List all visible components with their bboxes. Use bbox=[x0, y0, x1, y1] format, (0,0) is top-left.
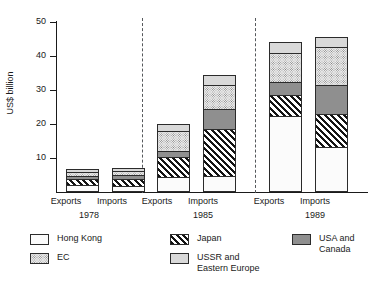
bar-1985-imports[interactable] bbox=[203, 75, 236, 192]
bar-segment-hong-kong bbox=[316, 147, 347, 191]
plot-area bbox=[57, 22, 367, 192]
group-label-1985: 1985 bbox=[158, 210, 248, 220]
legend-label-ussr-eastern-europe: USSR and Eastern Europe bbox=[197, 252, 260, 274]
y-axis-title: US$ billion bbox=[5, 58, 15, 128]
legend-swatch-ussr-icon bbox=[170, 253, 189, 264]
bar-segment-japan bbox=[204, 129, 235, 176]
bar-segment-japan bbox=[270, 95, 301, 116]
x-label-1985-imports: Imports bbox=[171, 196, 235, 206]
legend-item-ussr-eastern-europe[interactable]: USSR and Eastern Europe bbox=[170, 252, 260, 274]
bar-segment-hong-kong bbox=[158, 177, 189, 191]
bar-segment-ec bbox=[158, 131, 189, 151]
bar-1978-exports[interactable] bbox=[66, 169, 99, 192]
bar-1978-imports[interactable] bbox=[112, 168, 145, 192]
y-tick-50 bbox=[50, 22, 56, 23]
bar-segment-ec bbox=[270, 53, 301, 81]
legend-item-japan[interactable]: Japan bbox=[170, 233, 260, 245]
legend-item-usa-canada[interactable]: USA and Canada bbox=[292, 233, 355, 255]
legend-swatch-usa-canada-icon bbox=[292, 234, 311, 245]
group-label-1989: 1989 bbox=[270, 210, 360, 220]
legend-item-hong-kong[interactable]: Hong Kong bbox=[30, 233, 102, 245]
legend-column-1: Hong Kong EC bbox=[30, 233, 102, 271]
bar-segment-hong-kong bbox=[204, 176, 235, 191]
legend-swatch-ec-icon bbox=[30, 253, 49, 264]
stacked-bar-chart: US$ billion 50 40 30 20 10 Exports Impor… bbox=[0, 0, 381, 288]
bar-segment-japan bbox=[158, 157, 189, 177]
legend-item-ec[interactable]: EC bbox=[30, 252, 102, 264]
legend-label-hong-kong: Hong Kong bbox=[57, 233, 102, 244]
bar-segment-usa-and-canada bbox=[204, 109, 235, 129]
legend-column-2: Japan USSR and Eastern Europe bbox=[170, 233, 260, 281]
bar-1989-imports[interactable] bbox=[315, 37, 348, 192]
bar-1985-exports[interactable] bbox=[157, 124, 190, 192]
group-label-1978: 1978 bbox=[44, 210, 134, 220]
bar-segment-japan bbox=[113, 179, 144, 186]
y-tick-40 bbox=[50, 56, 56, 57]
legend-column-3: USA and Canada bbox=[292, 233, 355, 262]
bar-segment-ec bbox=[204, 85, 235, 109]
y-tick-label-50: 50 bbox=[20, 17, 46, 26]
legend-label-usa-canada: USA and Canada bbox=[319, 233, 355, 255]
bar-segment-hong-kong bbox=[270, 116, 301, 191]
legend-label-ec: EC bbox=[57, 252, 70, 263]
bar-segment-ec bbox=[316, 47, 347, 85]
bar-segment-usa-and-canada bbox=[316, 85, 347, 115]
legend-swatch-japan-icon bbox=[170, 234, 189, 245]
bar-segment-ussr-and-eastern-europe bbox=[204, 76, 235, 85]
bar-segment-hong-kong bbox=[113, 186, 144, 191]
bar-segment-hong-kong bbox=[67, 185, 98, 191]
legend-label-japan: Japan bbox=[197, 233, 222, 244]
bar-segment-usa-and-canada bbox=[270, 82, 301, 96]
x-axis-line bbox=[56, 192, 368, 193]
y-tick-label-40: 40 bbox=[20, 51, 46, 60]
bar-segment-ussr-and-eastern-europe bbox=[316, 38, 347, 46]
y-tick-label-10: 10 bbox=[20, 153, 46, 162]
y-tick-10 bbox=[50, 158, 56, 159]
bar-segment-japan bbox=[316, 114, 347, 146]
y-tick-30 bbox=[50, 90, 56, 91]
bar-segment-ussr-and-eastern-europe bbox=[270, 43, 301, 53]
x-label-1989-imports: Imports bbox=[283, 196, 347, 206]
y-tick-20 bbox=[50, 124, 56, 125]
chart-legend: Hong Kong EC Japan USSR and Eastern Euro… bbox=[30, 233, 370, 281]
y-tick-label-30: 30 bbox=[20, 85, 46, 94]
bar-1989-exports[interactable] bbox=[269, 42, 302, 192]
legend-swatch-hong-kong-icon bbox=[30, 234, 49, 245]
y-tick-label-20: 20 bbox=[20, 119, 46, 128]
